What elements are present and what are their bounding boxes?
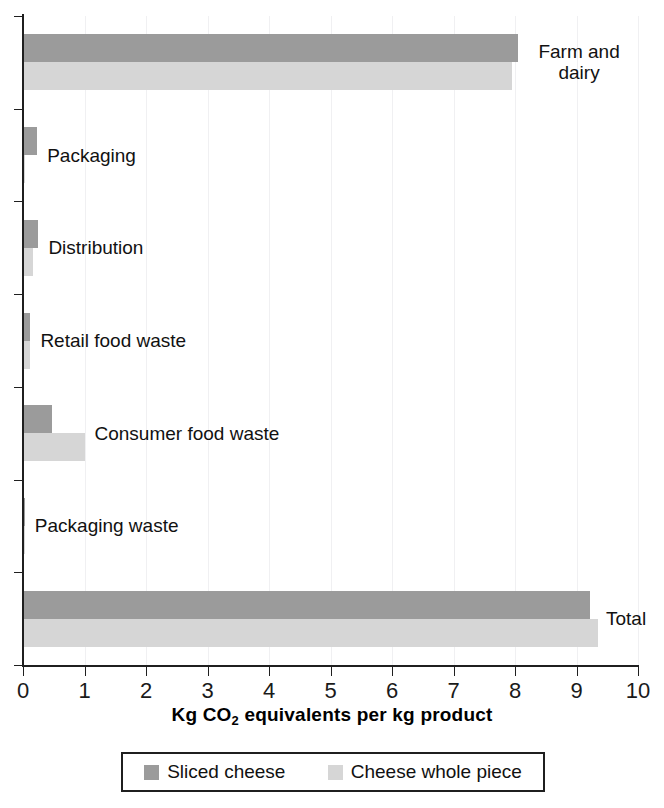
x-axis-title-post: equivalents per kg product: [239, 704, 493, 725]
gridline: [577, 16, 578, 665]
x-tick-label: 0: [3, 678, 43, 704]
category-label: Packaging: [47, 145, 136, 166]
x-tick: [85, 667, 86, 676]
y-tick: [14, 387, 24, 388]
x-tick-label: 8: [495, 678, 535, 704]
category-label: Total: [606, 608, 646, 629]
gridline: [208, 16, 209, 665]
bar-chart-figure: 012345678910 Farm and dairyPackagingDist…: [0, 0, 664, 808]
y-tick: [14, 665, 24, 666]
y-tick: [14, 109, 24, 110]
x-tick-label: 9: [557, 678, 597, 704]
bar: [23, 34, 518, 62]
x-tick: [454, 667, 455, 676]
x-tick-label: 6: [372, 678, 412, 704]
legend-label: Cheese whole piece: [351, 761, 522, 783]
category-label: Retail food waste: [40, 330, 186, 351]
x-tick-label: 5: [311, 678, 351, 704]
category-label: Packaging waste: [35, 515, 179, 536]
gridline: [392, 16, 393, 665]
gridline: [331, 16, 332, 665]
y-tick: [14, 294, 24, 295]
x-tick-label: 4: [249, 678, 289, 704]
x-tick: [23, 667, 24, 676]
x-tick: [392, 667, 393, 676]
x-axis-title-subscript: 2: [232, 713, 239, 728]
legend-entry[interactable]: Cheese whole piece: [328, 761, 522, 783]
x-axis-title: Kg CO2 equivalents per kg product: [0, 704, 664, 726]
bar: [23, 220, 38, 248]
x-tick-label: 3: [188, 678, 228, 704]
x-tick: [269, 667, 270, 676]
gridline: [638, 16, 639, 665]
legend-entry[interactable]: Sliced cheese: [144, 761, 285, 783]
bar: [23, 433, 85, 461]
y-tick: [14, 480, 24, 481]
x-tick: [577, 667, 578, 676]
bar: [23, 591, 590, 619]
bar: [23, 313, 30, 341]
bar: [23, 341, 30, 369]
y-tick: [14, 572, 24, 573]
y-axis-line: [22, 14, 24, 667]
chart-title: [0, 0, 664, 6]
legend-swatch-icon: [144, 765, 159, 780]
y-tick: [14, 16, 24, 17]
x-tick: [515, 667, 516, 676]
category-label: Farm and dairy: [524, 41, 634, 84]
legend-swatch-icon: [328, 765, 343, 780]
y-tick: [14, 201, 24, 202]
gridline: [269, 16, 270, 665]
x-tick: [146, 667, 147, 676]
bar: [23, 248, 33, 276]
category-label: Consumer food waste: [95, 423, 280, 444]
bar: [23, 127, 37, 155]
bar: [23, 405, 52, 433]
gridline: [515, 16, 516, 665]
legend-label: Sliced cheese: [167, 761, 285, 783]
x-tick-label: 10: [618, 678, 658, 704]
bar: [23, 62, 512, 90]
category-label: Distribution: [48, 237, 143, 258]
x-tick-label: 2: [126, 678, 166, 704]
bar: [23, 619, 598, 647]
x-axis-title-pre: Kg CO: [171, 704, 231, 725]
x-tick: [638, 667, 639, 676]
gridline: [454, 16, 455, 665]
x-tick-label: 7: [434, 678, 474, 704]
x-tick-label: 1: [65, 678, 105, 704]
chart-legend: Sliced cheeseCheese whole piece: [121, 752, 545, 792]
x-tick: [208, 667, 209, 676]
x-tick: [331, 667, 332, 676]
